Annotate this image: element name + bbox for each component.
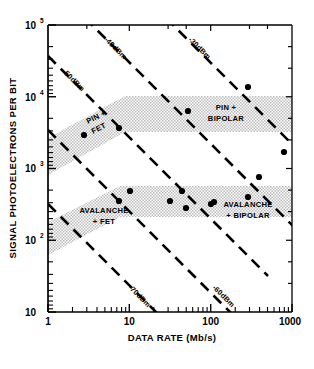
y-tick-labels: 10 5 10 4 10 3 10 2 10: [25, 17, 44, 318]
data-point: [127, 188, 133, 194]
label-minus40dbm: -40dBm: [103, 35, 129, 61]
label-avalanche-fet-line1: AVALANCHE: [79, 206, 128, 215]
x-tick-label-10: 10: [124, 316, 136, 327]
data-point: [245, 84, 251, 90]
data-point: [81, 132, 87, 138]
y-tick-label-10: 10: [25, 307, 37, 318]
label-pin-bipolar-line1: PIN +: [216, 103, 237, 112]
scatter-plot-canvas: -30dBm -40dBm -50dBm -60dBm -70dBm PIN +…: [0, 0, 314, 369]
y-tick-label-1000-mantissa: 10: [25, 163, 37, 174]
y-ticks-right: [286, 47, 292, 284]
data-point: [281, 149, 287, 155]
x-tick-label-1000: 1000: [279, 316, 302, 327]
label-minus30dbm: -30dBm: [187, 35, 213, 61]
y-tick-label-100000-exponent: 5: [40, 17, 44, 24]
y-tick-label-10000-exponent: 4: [40, 89, 44, 96]
label-minus70dbm: -70dBm: [127, 283, 153, 309]
data-point: [116, 125, 122, 131]
y-tick-label-100000-mantissa: 10: [25, 20, 37, 31]
y-tick-label-1000-exponent: 3: [40, 160, 44, 167]
x-ticks-top: [87, 25, 268, 31]
data-point: [116, 198, 122, 204]
y-tick-label-100-mantissa: 10: [25, 235, 37, 246]
label-pin-bipolar-line2: BIPOLAR: [208, 114, 244, 123]
y-tick-label-100-exponent: 2: [40, 232, 44, 239]
label-avalanche-bipolar-line2: + BIPOLAR: [226, 211, 270, 220]
y-tick-label-10000-mantissa: 10: [25, 92, 37, 103]
data-point: [185, 108, 191, 114]
reference-lines: [48, 18, 314, 346]
axes-frame: [48, 25, 292, 312]
data-point: [256, 174, 262, 180]
x-tick-label-100: 100: [202, 316, 219, 327]
x-ticks: [48, 304, 292, 312]
reference-line-labels: -30dBm -40dBm -50dBm -60dBm -70dBm: [61, 35, 237, 309]
label-avalanche-fet-line2: + FET: [93, 217, 115, 226]
chart-figure: -30dBm -40dBm -50dBm -60dBm -70dBm PIN +…: [0, 0, 314, 369]
band-lower: [48, 186, 300, 255]
label-avalanche-bipolar-line1: AVALANCHE: [223, 200, 272, 209]
data-point: [211, 199, 217, 205]
x-axis-title: DATA RATE (Mb/s): [128, 332, 217, 343]
data-point: [167, 198, 173, 204]
y-axis-title: SIGNAL PHOTOELECTRONS PER BIT: [7, 78, 18, 259]
x-tick-label-1: 1: [45, 316, 51, 327]
x-tick-labels: 1 10 100 1000: [45, 316, 301, 327]
data-point: [183, 205, 189, 211]
label-minus50dbm: -50dBm: [61, 67, 87, 93]
data-point: [179, 188, 185, 194]
